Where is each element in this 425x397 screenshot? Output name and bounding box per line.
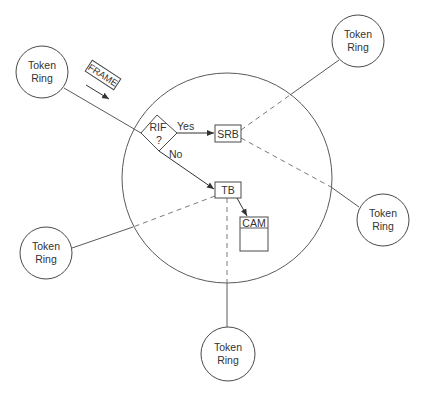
token-ring-label: Ring bbox=[35, 253, 57, 265]
cam-table: CAM bbox=[240, 217, 268, 252]
bridge-circle bbox=[122, 73, 332, 283]
decision-question-mark: ? bbox=[156, 134, 162, 146]
token-ring-label: Token bbox=[214, 341, 242, 353]
frame-direction-arrow bbox=[86, 85, 109, 99]
token-ring-label: Token bbox=[32, 240, 60, 252]
srb-node: SRB bbox=[215, 125, 241, 142]
link-bottom-left-ring bbox=[72, 227, 133, 248]
token-ring-top-right: Token Ring bbox=[332, 15, 384, 67]
token-ring-label: Ring bbox=[31, 72, 53, 84]
dashed-tb-bottom-left bbox=[133, 196, 215, 227]
decision-label: RIF bbox=[150, 121, 167, 133]
bridge-diagram: Token Ring Token Ring Token Ring Token R… bbox=[0, 0, 425, 397]
frame-label: FRAME bbox=[85, 60, 121, 89]
token-ring-label: Ring bbox=[347, 41, 369, 53]
tb-to-cam-arrow bbox=[237, 198, 247, 216]
tb-node: TB bbox=[215, 182, 241, 198]
token-ring-bottom-left: Token Ring bbox=[20, 227, 72, 279]
yes-label: Yes bbox=[177, 120, 194, 132]
token-ring-label: Token bbox=[344, 28, 372, 40]
dashed-srb-right bbox=[241, 138, 331, 187]
token-ring-top-left: Token Ring bbox=[16, 46, 68, 98]
no-label: No bbox=[169, 148, 183, 160]
rif-decision-diamond: RIF ? bbox=[141, 115, 177, 151]
token-ring-right: Token Ring bbox=[357, 194, 409, 246]
srb-label: SRB bbox=[217, 128, 239, 140]
token-ring-label: Token bbox=[369, 207, 397, 219]
token-ring-bottom: Token Ring bbox=[201, 327, 255, 381]
dashed-srb-top-right bbox=[241, 95, 290, 130]
tb-label: TB bbox=[221, 184, 234, 196]
no-arrow bbox=[159, 151, 214, 189]
token-ring-label: Ring bbox=[372, 220, 394, 232]
link-top-right-ring bbox=[290, 60, 339, 95]
token-ring-label: Token bbox=[28, 59, 56, 71]
cam-label: CAM bbox=[242, 217, 265, 229]
token-ring-label: Ring bbox=[217, 354, 239, 366]
link-right-ring bbox=[331, 187, 359, 207]
